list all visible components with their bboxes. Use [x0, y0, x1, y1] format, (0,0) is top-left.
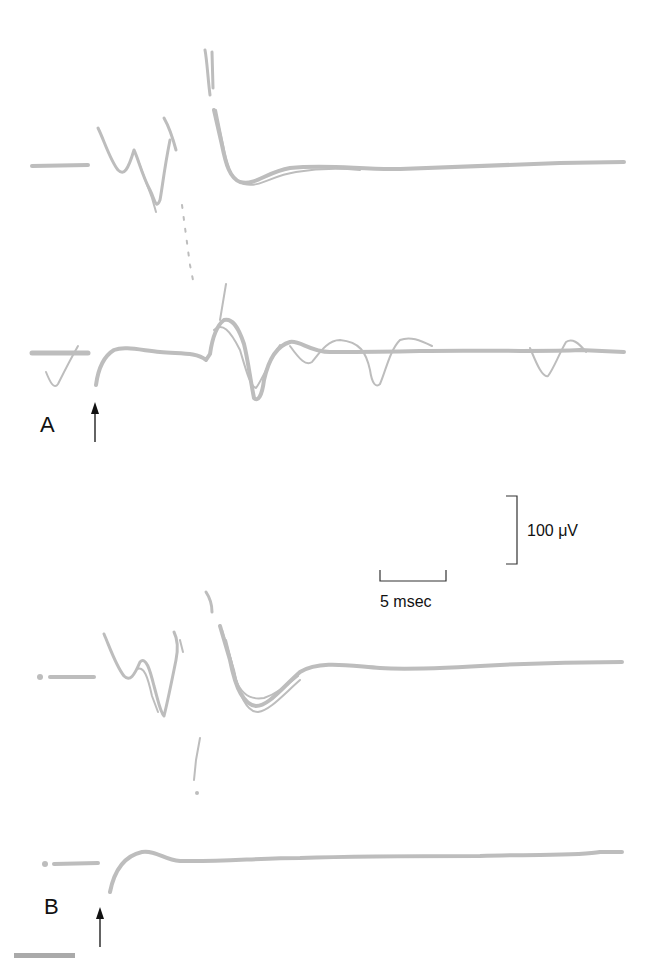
time-scale-label: 5 msec [380, 593, 432, 610]
trace-b-lower [42, 852, 622, 892]
stimulus-arrow-a-icon [91, 402, 99, 442]
trace-b-upper [37, 592, 622, 716]
trace-b-upper-artifact [194, 738, 200, 795]
time-scale-bar [380, 570, 446, 581]
panel-b-label: B [44, 894, 59, 919]
voltage-scale-bar [506, 496, 517, 564]
stimulus-arrow-b-icon [96, 907, 104, 947]
voltage-scale-label: 100 μV [527, 522, 578, 539]
stimulus-duration-bar [14, 953, 75, 958]
trace-a-lower [32, 284, 624, 399]
figure-canvas: A 100 μV 5 msec B [0, 0, 664, 965]
panel-a-label: A [40, 412, 55, 437]
trace-a-upper [32, 50, 624, 285]
